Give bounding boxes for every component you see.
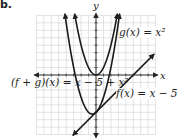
g-function-label: g(x) = x² (119, 27, 165, 38)
sum-function-label: (f + g)(x) = x − 5 + x² (11, 77, 129, 88)
x-axis-label: x (160, 70, 166, 81)
y-axis-label: y (92, 0, 99, 11)
function-graph: y x (0, 0, 178, 140)
f-function-label: f(x) = x − 5 (116, 88, 178, 99)
